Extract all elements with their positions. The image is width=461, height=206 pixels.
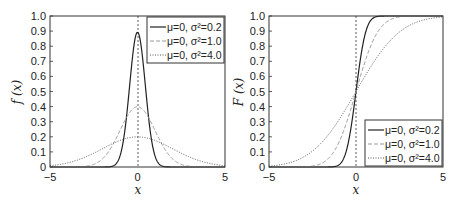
right-legend: μ=0, σ²=0.2 μ=0, σ²=1.0 μ=0, σ²=4.0 <box>365 120 442 166</box>
y-tick-label: 0.4 <box>250 101 265 113</box>
chart-canvas: 00.10.20.30.40.50.60.70.80.91.0 −505 x f… <box>0 0 461 206</box>
right-legend-label-0: μ=0, σ²=0.2 <box>385 124 440 136</box>
y-tick-label: 0.5 <box>31 86 46 98</box>
left-legend-label-1: μ=0, σ²=1.0 <box>167 35 222 47</box>
y-tick-label: 0.4 <box>31 101 46 113</box>
right-y-axis-label: F (x) <box>232 78 246 108</box>
y-tick-label: 0.6 <box>31 70 46 82</box>
y-tick-label: 1.0 <box>31 10 46 22</box>
left-y-axis-label: f (x) <box>10 79 24 105</box>
x-tick-label: −5 <box>44 171 57 183</box>
x-tick-label: 5 <box>222 171 228 183</box>
x-tick-label: 5 <box>440 171 446 183</box>
left-x-axis-label: x <box>135 183 142 197</box>
x-tick-label: 0 <box>134 171 140 183</box>
left-legend-label-2: μ=0, σ²=4.0 <box>167 49 222 61</box>
x-tick-label: 0 <box>353 171 359 183</box>
y-tick-label: 0.6 <box>250 70 265 82</box>
y-tick-label: 0.8 <box>250 40 265 52</box>
right-x-ticks: −505 <box>263 171 446 183</box>
y-tick-label: 0.2 <box>250 131 265 143</box>
y-tick-label: 0.1 <box>250 146 265 158</box>
y-tick-label: 0.5 <box>250 86 265 98</box>
y-tick-label: 0.3 <box>31 116 46 128</box>
pdf-plot: 00.10.20.30.40.50.60.70.80.91.0 −505 x f… <box>10 10 228 197</box>
left-legend-label-0: μ=0, σ²=0.2 <box>167 21 222 33</box>
cdf-plot: 00.10.20.30.40.50.60.70.80.91.0 −505 x F… <box>232 10 446 197</box>
right-x-axis-label: x <box>353 183 360 197</box>
left-series-var-4.0 <box>50 137 225 166</box>
y-tick-label: 0.9 <box>250 25 265 37</box>
y-tick-label: 1.0 <box>250 10 265 22</box>
y-tick-label: 0.8 <box>31 40 46 52</box>
left-x-ticks: −505 <box>44 171 228 183</box>
left-legend: μ=0, σ²=0.2 μ=0, σ²=1.0 μ=0, σ²=4.0 <box>147 17 224 63</box>
y-tick-label: 0.2 <box>31 131 46 143</box>
y-tick-label: 0.7 <box>250 55 265 67</box>
right-legend-label-2: μ=0, σ²=4.0 <box>385 152 440 164</box>
x-tick-label: −5 <box>263 171 276 183</box>
y-tick-label: 0.1 <box>31 146 46 158</box>
y-tick-label: 0.3 <box>250 116 265 128</box>
right-legend-label-1: μ=0, σ²=1.0 <box>385 138 440 150</box>
y-tick-label: 0.9 <box>31 25 46 37</box>
y-tick-label: 0.7 <box>31 55 46 67</box>
